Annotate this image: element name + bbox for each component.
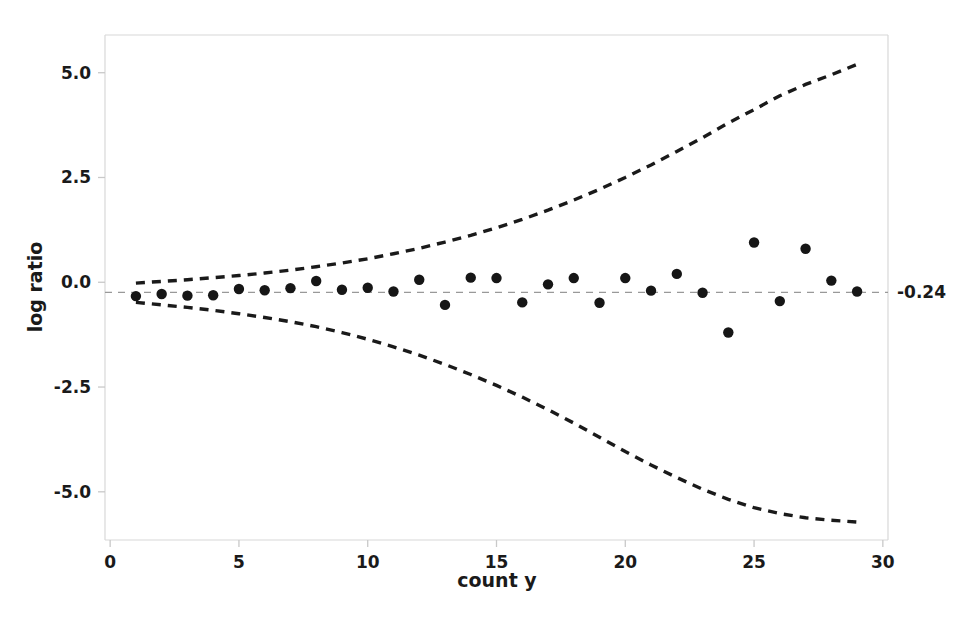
data-point: [414, 275, 424, 285]
data-point: [569, 273, 579, 283]
x-tick-label: 25: [742, 552, 766, 572]
x-axis-title: count y: [457, 569, 537, 591]
x-tick-label: 10: [356, 552, 380, 572]
data-point: [311, 276, 321, 286]
data-point: [697, 288, 707, 298]
x-tick-label: 5: [233, 552, 245, 572]
data-point: [543, 279, 553, 289]
data-point: [131, 291, 141, 301]
y-tick-label: 0.0: [61, 272, 91, 292]
data-point: [156, 289, 166, 299]
data-point: [182, 290, 192, 300]
data-point: [491, 273, 501, 283]
data-point: [672, 269, 682, 279]
x-tick-label: 20: [613, 552, 637, 572]
reference-line-value-label: -0.24: [897, 282, 946, 302]
data-point: [517, 297, 527, 307]
data-point: [208, 290, 218, 300]
chart-canvas: 5.02.50.0-2.5-5.0 051015202530 -0.24 cou…: [0, 0, 957, 625]
x-tick-label: 0: [104, 552, 116, 572]
data-point: [775, 296, 785, 306]
data-point: [363, 283, 373, 293]
data-point: [749, 237, 759, 247]
data-point: [259, 285, 269, 295]
y-tick-label: -2.5: [54, 377, 91, 397]
data-point: [620, 273, 630, 283]
y-tick-label: -5.0: [54, 482, 91, 502]
chart-background: [0, 0, 957, 625]
funnel-plot-figure: 5.02.50.0-2.5-5.0 051015202530 -0.24 cou…: [0, 0, 957, 625]
data-point: [594, 298, 604, 308]
data-point: [723, 327, 733, 337]
data-point: [852, 286, 862, 296]
data-point: [826, 275, 836, 285]
y-tick-label: 2.5: [61, 167, 91, 187]
y-tick-label: 5.0: [61, 63, 91, 83]
data-point: [285, 283, 295, 293]
x-tick-label: 30: [871, 552, 895, 572]
data-point: [234, 284, 244, 294]
y-axis-title: log ratio: [24, 242, 46, 333]
data-point: [800, 244, 810, 254]
data-point: [388, 286, 398, 296]
data-point: [466, 272, 476, 282]
data-point: [646, 285, 656, 295]
data-point: [337, 285, 347, 295]
data-point: [440, 300, 450, 310]
